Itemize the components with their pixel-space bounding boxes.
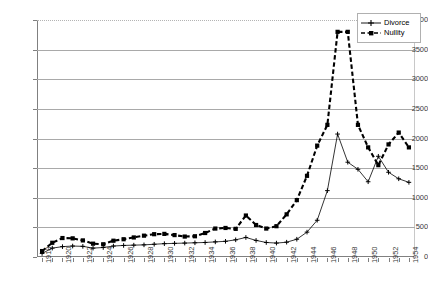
data-point — [244, 213, 248, 217]
data-point — [121, 243, 126, 248]
data-point — [60, 244, 65, 249]
legend-symbol-divorce — [360, 18, 382, 28]
data-point — [183, 234, 187, 238]
data-point — [193, 240, 198, 245]
series-line-divorce — [42, 134, 409, 253]
series-markers-divorce — [40, 132, 411, 256]
data-point — [50, 241, 54, 245]
series-layer — [0, 0, 428, 303]
data-point — [162, 241, 167, 246]
data-point — [223, 239, 228, 244]
data-point — [376, 163, 380, 167]
data-point — [91, 246, 96, 251]
data-point — [397, 130, 401, 134]
data-point — [305, 174, 309, 178]
data-point — [264, 240, 269, 245]
data-point — [81, 244, 86, 249]
data-point — [407, 180, 412, 185]
data-point — [172, 241, 177, 246]
chart-legend: Divorce Nullity — [357, 13, 421, 43]
data-point — [203, 231, 207, 235]
series-markers-nullity — [40, 30, 411, 253]
data-point — [142, 243, 147, 248]
data-point — [407, 145, 411, 149]
data-point — [182, 241, 187, 246]
data-point — [346, 30, 350, 34]
data-point — [376, 154, 381, 159]
data-point — [284, 240, 289, 245]
data-point — [132, 243, 137, 248]
data-point — [233, 238, 238, 243]
data-point — [244, 235, 249, 240]
data-point — [81, 238, 85, 242]
data-point — [274, 224, 278, 228]
data-point — [71, 236, 75, 240]
data-point — [285, 212, 289, 216]
data-point — [213, 226, 217, 230]
data-point — [386, 170, 391, 175]
legend-item-nullity: Nullity — [360, 28, 417, 38]
data-point — [152, 242, 157, 247]
data-point — [366, 145, 370, 149]
data-point — [325, 123, 329, 127]
data-point — [132, 235, 136, 239]
data-point — [396, 176, 401, 181]
data-point — [70, 244, 75, 249]
data-point — [295, 237, 300, 242]
data-point — [203, 240, 208, 245]
data-point — [386, 142, 390, 146]
data-point — [213, 240, 218, 245]
data-point — [122, 237, 126, 241]
data-point — [152, 232, 156, 236]
data-point — [254, 223, 258, 227]
data-point — [264, 226, 268, 230]
data-point — [50, 246, 55, 251]
data-point — [193, 234, 197, 238]
series-line-nullity — [42, 32, 409, 251]
data-point — [172, 233, 176, 237]
legend-label-divorce: Divorce — [382, 18, 409, 28]
data-point — [111, 244, 116, 249]
data-point — [234, 227, 238, 231]
data-point — [335, 132, 340, 137]
data-point — [315, 144, 319, 148]
data-point — [40, 249, 44, 253]
data-point — [254, 238, 259, 243]
chart-container: 05001000150020002500300035004000 1918192… — [0, 0, 428, 303]
data-point — [335, 30, 339, 34]
legend-item-divorce: Divorce — [360, 18, 417, 28]
legend-label-nullity: Nullity — [382, 28, 404, 38]
data-point — [60, 236, 64, 240]
data-point — [223, 226, 227, 230]
data-point — [91, 242, 95, 246]
data-point — [142, 234, 146, 238]
legend-symbol-nullity — [360, 28, 382, 38]
data-point — [295, 198, 299, 202]
data-point — [111, 239, 115, 243]
data-point — [274, 241, 279, 246]
data-point — [162, 232, 166, 236]
data-point — [325, 188, 330, 193]
data-point — [356, 123, 360, 127]
data-point — [101, 242, 105, 246]
